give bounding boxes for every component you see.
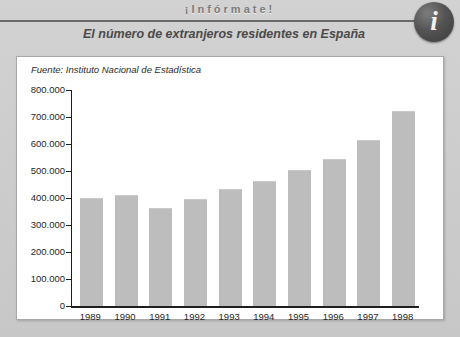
bar <box>392 111 415 306</box>
y-axis-label: 500.000 <box>19 165 65 176</box>
y-axis-tick <box>66 306 71 307</box>
page-title: ¡Infórmate! <box>0 3 460 15</box>
bar <box>184 199 207 306</box>
source-note: Fuente: Instituto Nacional de Estadístic… <box>31 64 201 75</box>
header: ¡Infórmate! El número de extranjeros res… <box>0 0 460 52</box>
bar-series <box>72 90 419 306</box>
x-axis-label: 1992 <box>177 311 211 322</box>
bar <box>357 140 380 306</box>
x-axis-label: 1997 <box>351 311 385 322</box>
bar <box>115 195 138 306</box>
y-axis-tick <box>66 117 71 118</box>
y-axis-label: 600.000 <box>19 138 65 149</box>
y-axis-tick <box>66 279 71 280</box>
x-axis-label: 1990 <box>108 311 142 322</box>
bar <box>323 159 346 306</box>
y-axis-label: 700.000 <box>19 111 65 122</box>
y-axis-tick <box>66 225 71 226</box>
header-divider <box>0 20 447 22</box>
y-axis-label: 800.000 <box>19 84 65 95</box>
y-axis-label: 200.000 <box>19 246 65 257</box>
x-axis <box>71 306 419 308</box>
info-icon: i <box>414 2 454 42</box>
y-axis-tick <box>66 252 71 253</box>
bar <box>219 189 242 306</box>
y-axis-label: 300.000 <box>19 219 65 230</box>
x-axis-label: 1989 <box>73 311 107 322</box>
bar <box>253 181 276 306</box>
y-axis-label: 100.000 <box>19 273 65 284</box>
x-axis-label: 1995 <box>282 311 316 322</box>
bar <box>288 170 311 306</box>
bar <box>149 208 172 306</box>
info-icon-letter: i <box>430 8 438 35</box>
y-axis-tick <box>66 90 71 91</box>
chart-title: El número de extranjeros residentes en E… <box>0 27 448 41</box>
y-axis-label: 0 <box>19 300 65 311</box>
y-axis-tick <box>66 171 71 172</box>
y-axis-tick <box>66 198 71 199</box>
chart-panel: Fuente: Instituto Nacional de Estadístic… <box>16 56 444 320</box>
y-axis-tick <box>66 144 71 145</box>
x-axis-label: 1991 <box>143 311 177 322</box>
x-axis-label: 1994 <box>247 311 281 322</box>
bar <box>80 198 103 306</box>
plot-area: 0100.000200.000300.000400.000500.000600.… <box>71 90 419 306</box>
x-axis-label: 1998 <box>386 311 420 322</box>
poster: ¡Infórmate! El número de extranjeros res… <box>0 0 460 337</box>
x-axis-label: 1993 <box>212 311 246 322</box>
x-axis-label: 1996 <box>316 311 350 322</box>
y-axis-label: 400.000 <box>19 192 65 203</box>
